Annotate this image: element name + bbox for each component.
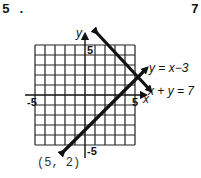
answer-text: (5, 2) (37, 156, 80, 170)
x-tick-max: 5 (132, 96, 138, 108)
x-tick-min: -5 (27, 96, 37, 108)
y-axis-label: y (75, 26, 83, 40)
line1-label: y = x−3 (148, 61, 189, 75)
line2-label: x + y = 7 (147, 84, 195, 98)
y-tick-max: 5 (87, 44, 93, 56)
y-tick-min: -5 (87, 145, 97, 157)
coordinate-graph: x y -5 5 5 -5 y = x−3 x + y = 7 (0, 0, 201, 178)
line-x-plus-y-equals-7 (96, 32, 150, 90)
